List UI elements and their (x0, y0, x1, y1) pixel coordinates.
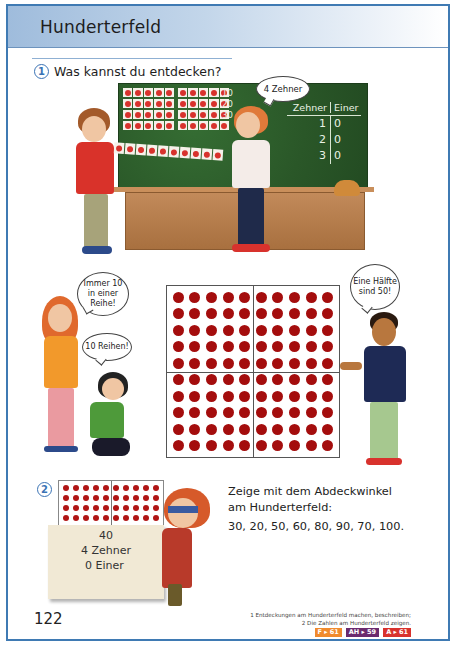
dot (170, 306, 187, 323)
dot-card (158, 145, 169, 157)
card-row (123, 110, 229, 119)
header-einer: Einer (331, 102, 361, 113)
dot (141, 503, 151, 513)
cell-einer: 0 (331, 132, 361, 148)
dot-card (147, 145, 158, 157)
dot (203, 438, 220, 455)
badge-ah: AH ▸ 59 (346, 628, 379, 637)
dot-card (178, 121, 187, 130)
page-number: 122 (34, 610, 63, 628)
dot (220, 438, 237, 455)
dot (61, 513, 71, 523)
dot-card (144, 121, 153, 130)
dot-card (202, 148, 213, 160)
task-1-instruction: Was kannst du entdecken? (54, 64, 222, 79)
dot (303, 372, 320, 389)
dot (141, 483, 151, 493)
dot-card (178, 110, 187, 119)
cell-zehner: 1 (287, 116, 331, 132)
cell-einer: 0 (331, 148, 361, 164)
dot (71, 513, 81, 523)
dot (91, 493, 101, 503)
card-row (123, 99, 229, 108)
dot-card (133, 110, 142, 119)
dot (203, 322, 220, 339)
dot (187, 355, 204, 372)
girl-illustration-orange-shirt (40, 296, 82, 456)
dot (286, 372, 303, 389)
dot-card (191, 148, 202, 160)
dot (101, 483, 111, 493)
pointing-hand (340, 362, 362, 370)
dot (303, 405, 320, 422)
dot (141, 513, 151, 523)
divider-horizontal (167, 372, 339, 373)
dot (286, 438, 303, 455)
dot (220, 421, 237, 438)
dot (236, 322, 253, 339)
dot (170, 421, 187, 438)
dot (203, 355, 220, 372)
dot (121, 483, 131, 493)
dot (203, 372, 220, 389)
dot-card (178, 88, 187, 97)
dot (220, 388, 237, 405)
dot-card (213, 149, 224, 161)
dot (121, 493, 131, 503)
dot (270, 421, 287, 438)
dot-card (199, 121, 208, 130)
dot-card-rows (123, 88, 229, 132)
dot (319, 306, 336, 323)
dot (203, 405, 220, 422)
dot-card (180, 147, 191, 159)
dot (220, 372, 237, 389)
basket-illustration (334, 180, 360, 196)
dot (220, 322, 237, 339)
hundred-field (166, 285, 340, 458)
dot (236, 306, 253, 323)
dot-card (133, 121, 142, 130)
dot (303, 339, 320, 356)
dot (319, 372, 336, 389)
boy-illustration-red-hoodie (72, 108, 122, 258)
dot-card (114, 142, 125, 154)
dot (81, 503, 91, 513)
dot (236, 438, 253, 455)
dot (170, 372, 187, 389)
dot (187, 405, 204, 422)
number-list: 30, 20, 50, 60, 80, 90, 70, 100. (228, 519, 404, 535)
dot (270, 322, 287, 339)
dot-card (165, 110, 174, 119)
badge-a: A ▸ 61 (383, 628, 411, 637)
dot (236, 421, 253, 438)
task-2-heading: 2 (37, 482, 52, 497)
dot (319, 438, 336, 455)
dot (253, 289, 270, 306)
dot (71, 503, 81, 513)
dot-card (209, 99, 218, 108)
dot (170, 355, 187, 372)
dot (71, 483, 81, 493)
dot (303, 421, 320, 438)
badge-f: F ▸ 61 (315, 628, 342, 637)
dot (253, 306, 270, 323)
dot (203, 388, 220, 405)
dot (187, 289, 204, 306)
dot (286, 306, 303, 323)
table-row: 2 0 (287, 132, 361, 148)
dot-card (165, 88, 174, 97)
dot-card (165, 99, 174, 108)
section-rule (32, 58, 232, 59)
dot (131, 493, 141, 503)
dot (170, 405, 187, 422)
dot (111, 483, 121, 493)
dot (61, 483, 71, 493)
dot (170, 438, 187, 455)
dot (81, 493, 91, 503)
dot (131, 483, 141, 493)
divider-vertical (111, 481, 112, 525)
dot (236, 339, 253, 356)
place-value-table: Zehner Einer 1 0 2 0 3 0 (287, 102, 361, 164)
dot (270, 372, 287, 389)
boy-illustration-green-sweater (88, 372, 132, 460)
